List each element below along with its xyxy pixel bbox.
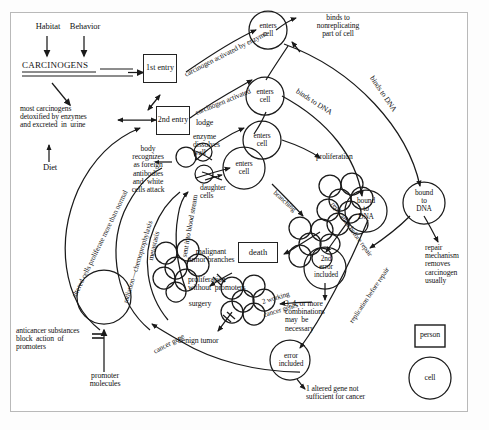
cell-enters-cell-4: enters cell xyxy=(224,160,264,176)
cell-error-included: error included xyxy=(270,352,312,368)
label-promoter-molecules: promoter molecules xyxy=(76,372,134,389)
cell-second-error-included: 2nd error included xyxy=(305,256,347,279)
cell-bound-to-dna-1: bound to DNA xyxy=(346,197,386,221)
label-daughter-cells: daughter cells xyxy=(200,184,248,200)
cell-enters-cell-3: enters cell xyxy=(242,132,282,148)
label-diet: Diet xyxy=(30,163,70,172)
label-repair-mechanism: repair mechanism removes carcinogen usua… xyxy=(425,244,487,285)
label-surgery: surgery xyxy=(176,300,224,308)
label-detoxified: most carcinogens detoxified by enzymes a… xyxy=(20,105,124,130)
label-proliferation: proliferation xyxy=(316,153,382,161)
cell-enters-cell-1: enters cell xyxy=(248,22,288,38)
label-carcinogens: CARCINOGENS xyxy=(22,61,108,71)
label-anticancer-substances: anticancer substances block action of pr… xyxy=(16,327,112,352)
box-first-entry[interactable]: 1st entry xyxy=(143,54,177,83)
label-lodge: lodge xyxy=(196,119,232,128)
cell-bound-to-dna-2: bound to DNA xyxy=(404,189,444,213)
label-behavior: Behavior xyxy=(58,22,112,31)
label-enzyme-dissolves-wall: enzyme dissolves wall xyxy=(193,133,243,158)
cell-enters-cell-2: enters cell xyxy=(245,88,285,104)
label-proliferation-without-promoters: proliferation without promoters xyxy=(188,276,292,293)
label-one-altered-gene: 1 altered gene not sufficient for cancer xyxy=(306,385,410,401)
legend-person-label: person xyxy=(415,331,445,339)
diagram-canvas: Habitat Behavior CARCINOGENS most carcin… xyxy=(0,0,489,430)
label-binds-nonreplicating: binds to nonreplicating part of cell xyxy=(296,14,380,39)
legend-cell-label: cell xyxy=(414,374,446,382)
